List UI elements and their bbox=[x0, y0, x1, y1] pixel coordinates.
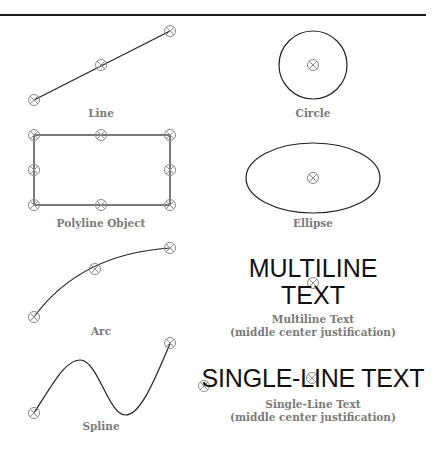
ellipse-object bbox=[246, 143, 380, 213]
spline-object bbox=[29, 338, 176, 419]
grip-icon bbox=[96, 60, 107, 71]
line-object bbox=[29, 26, 176, 106]
caption-multiline-text: Multiline Text (middle center justificat… bbox=[230, 313, 396, 339]
grip-icon bbox=[29, 95, 40, 106]
caption-arc: Arc bbox=[91, 325, 111, 338]
caption-single-line-text: Single-Line Text (middle center justific… bbox=[230, 398, 396, 424]
caption-ellipse: Ellipse bbox=[293, 217, 333, 230]
caption-spline: Spline bbox=[82, 420, 119, 433]
caption-line: Line bbox=[88, 107, 114, 120]
multiline-text-line2: TEXT bbox=[249, 282, 378, 309]
arc-object bbox=[29, 243, 176, 323]
caption-single-line-sub: (middle center justification) bbox=[230, 411, 396, 424]
grip-icon bbox=[165, 338, 176, 349]
multiline-text-object: MULTILINE TEXT bbox=[249, 255, 378, 309]
caption-circle: Circle bbox=[296, 107, 331, 120]
cad-grips-figure: MULTILINE TEXT SINGLE-LINE TEXT Line Cir… bbox=[0, 0, 439, 456]
grip-icon bbox=[29, 312, 40, 323]
caption-multiline-title: Multiline Text bbox=[230, 313, 396, 326]
grip-icon bbox=[308, 60, 319, 71]
grip-icon bbox=[29, 408, 40, 419]
caption-multiline-sub: (middle center justification) bbox=[230, 326, 396, 339]
grip-icon bbox=[308, 173, 319, 184]
circle-object bbox=[279, 31, 347, 99]
multiline-text-line1: MULTILINE bbox=[249, 255, 378, 282]
grip-icon bbox=[90, 264, 101, 275]
caption-polyline: Polyline Object bbox=[57, 217, 146, 230]
polyline-object bbox=[29, 130, 176, 211]
caption-single-line-title: Single-Line Text bbox=[230, 398, 396, 411]
single-line-text-object: SINGLE-LINE TEXT bbox=[202, 366, 425, 391]
grip-icon bbox=[165, 26, 176, 37]
